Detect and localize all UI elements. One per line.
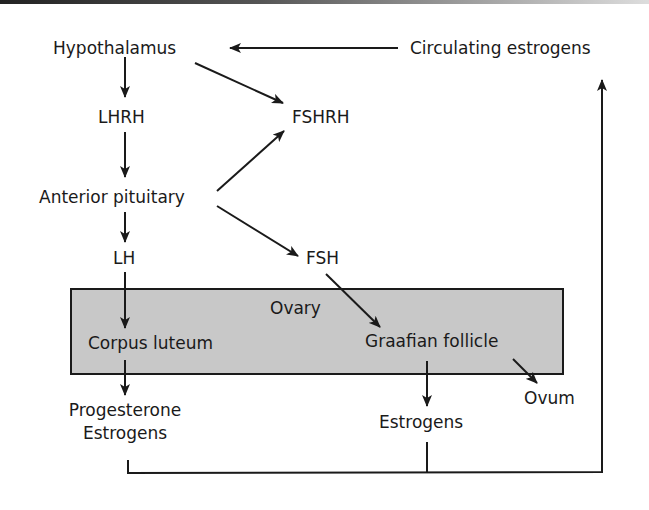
- arrow-hypothalamus-fshrh: [195, 63, 283, 103]
- node-corpus-luteum: Corpus luteum: [88, 333, 213, 353]
- node-lh: LH: [113, 248, 135, 268]
- node-estrogens-graafian: Estrogens: [379, 412, 463, 432]
- node-progesterone: Progesterone: [60, 400, 190, 420]
- node-fsh: FSH: [306, 248, 339, 268]
- node-ovum: Ovum: [524, 388, 575, 408]
- node-fshrh: FSHRH: [292, 107, 350, 127]
- feedback-line: [128, 80, 602, 473]
- node-graafian-follicle: Graafian follicle: [365, 331, 498, 351]
- node-anterior-pituitary: Anterior pituitary: [39, 187, 185, 207]
- arrow-graafian-ovum: [513, 359, 537, 383]
- arrow-anterior-fsh: [217, 206, 298, 256]
- node-estrogens-corpus: Estrogens: [60, 423, 190, 443]
- node-lhrh: LHRH: [98, 107, 145, 127]
- arrow-fsh-graafian: [326, 274, 380, 327]
- node-circulating-estrogens: Circulating estrogens: [410, 38, 591, 58]
- arrow-anterior-fshrh: [217, 131, 284, 191]
- node-hypothalamus: Hypothalamus: [53, 38, 176, 58]
- node-ovary: Ovary: [270, 298, 321, 318]
